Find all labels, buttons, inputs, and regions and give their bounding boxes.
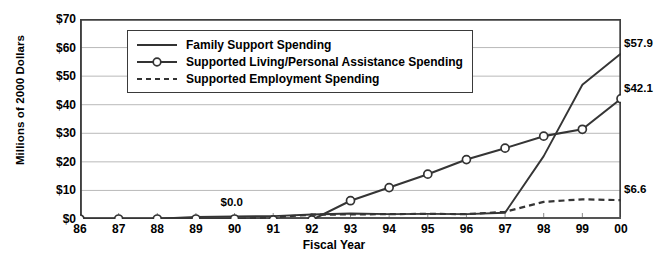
- y-tick-label: $20: [56, 155, 76, 169]
- data-value-label: $0.0: [221, 196, 243, 208]
- data-point-marker: [269, 216, 277, 219]
- data-point-marker: [347, 197, 355, 205]
- x-tick-label: 96: [460, 222, 473, 236]
- x-tick-label: 86: [73, 222, 86, 236]
- data-point-marker: [501, 144, 509, 152]
- legend-label: Family Support Spending: [186, 38, 331, 52]
- y-tick-label: $40: [56, 98, 76, 112]
- x-tick-label: 98: [537, 222, 550, 236]
- x-tick-label: 93: [344, 222, 357, 236]
- legend-marker: [153, 58, 161, 66]
- data-point-marker: [424, 170, 432, 178]
- legend-key-dashed-icon: [135, 72, 179, 86]
- data-point-marker: [192, 215, 200, 219]
- legend-label: Supported Employment Spending: [186, 72, 379, 86]
- data-point-marker: [115, 215, 123, 219]
- x-tick-label: 87: [112, 222, 125, 236]
- data-point-marker: [80, 215, 84, 219]
- y-tick-label: $70: [56, 12, 76, 26]
- x-tick-label: 90: [228, 222, 241, 236]
- legend-item: Supported Living/Personal Assistance Spe…: [135, 53, 463, 70]
- series-1: [80, 95, 621, 219]
- x-tick-label: 97: [498, 222, 511, 236]
- y-tick-label: $10: [56, 183, 76, 197]
- x-tick-label: 94: [382, 222, 395, 236]
- y-tick-label: $30: [56, 126, 76, 140]
- x-tick-label: 89: [189, 222, 202, 236]
- data-point-marker: [617, 95, 621, 103]
- data-point-marker: [385, 184, 393, 192]
- legend-key-solid-icon: [135, 38, 179, 52]
- chart-legend: Family Support SpendingSupported Living/…: [127, 30, 473, 93]
- legend-label: Supported Living/Personal Assistance Spe…: [186, 55, 463, 69]
- data-point-marker: [231, 215, 239, 219]
- data-point-marker: [540, 132, 548, 140]
- data-value-label: $57.9: [624, 37, 653, 49]
- y-tick-label: $60: [56, 41, 76, 55]
- legend-item: Family Support Spending: [135, 36, 463, 53]
- data-point-marker: [578, 125, 586, 133]
- x-tick-label: 95: [421, 222, 434, 236]
- data-value-label: $6.6: [624, 183, 646, 195]
- data-value-label: $42.1: [624, 82, 653, 94]
- x-tick-label: 91: [267, 222, 280, 236]
- x-tick-label: 92: [305, 222, 318, 236]
- legend-key-solid-markers-icon: [135, 55, 179, 69]
- legend-item: Supported Employment Spending: [135, 70, 463, 87]
- data-point-marker: [462, 156, 470, 164]
- y-tick-label: $50: [56, 69, 76, 83]
- data-point-marker: [153, 215, 161, 219]
- x-tick-label: 88: [151, 222, 164, 236]
- x-axis-title: Fiscal Year: [0, 238, 668, 252]
- x-tick-label: 00: [614, 222, 627, 236]
- spending-line-chart: Millions of 2000 Dollars $0$10$20$30$40$…: [0, 0, 668, 257]
- data-point-marker: [308, 216, 316, 219]
- x-tick-label: 99: [576, 222, 589, 236]
- y-axis-tick-labels: $0$10$20$30$40$50$60$70: [22, 0, 76, 257]
